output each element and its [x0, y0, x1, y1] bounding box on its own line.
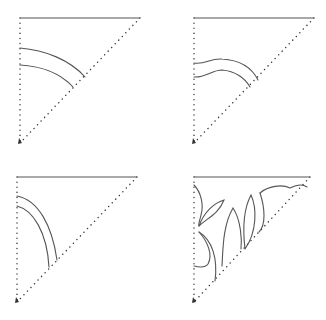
cut-line-long-stem: [199, 232, 216, 281]
panel-top-left: [18, 18, 140, 144]
cut-line-outer-arc: [17, 196, 57, 260]
corner-arrow-icon: [15, 297, 19, 303]
panel-top-right: [192, 18, 314, 144]
diagonal-fold-dotted: [194, 18, 314, 143]
cut-line-middle-leaf: [222, 208, 241, 266]
diagonal-fold-dotted: [17, 177, 137, 302]
corner-arrow-icon: [192, 138, 196, 144]
diagonal-fold-dotted: [194, 177, 310, 302]
cut-line-left-leaf: [199, 200, 224, 226]
corner-arrow-icon: [18, 138, 22, 144]
cut-line-right-stem: [259, 193, 264, 232]
diagonal-fold-dotted: [20, 18, 140, 143]
cut-line-inner-arc: [20, 65, 73, 87]
cut-line-right-leaf: [244, 195, 255, 249]
cut-line-lower-wave: [194, 70, 250, 87]
cut-line-inner-arc: [17, 206, 49, 267]
folded-paper-diagram: [0, 0, 326, 320]
cut-line-lower-left-lobe: [194, 232, 210, 267]
cut-line-top-left-curl: [194, 185, 202, 226]
panel-bottom-right: [192, 177, 310, 303]
cut-line-upper-wave: [194, 59, 258, 80]
cut-line-top-wave: [260, 185, 307, 193]
panel-bottom-left: [15, 177, 137, 303]
